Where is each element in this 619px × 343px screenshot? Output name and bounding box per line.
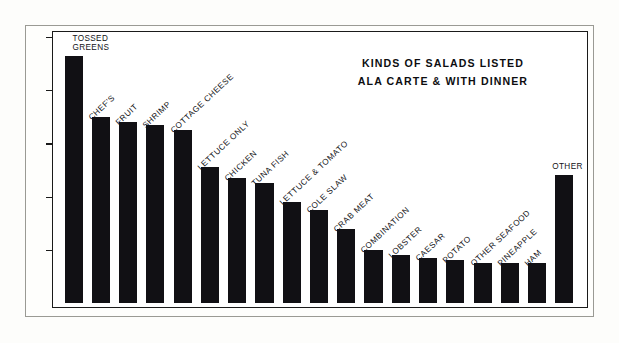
bar xyxy=(65,56,83,303)
bar xyxy=(201,167,219,303)
bar-category-label-line-2: GREENS xyxy=(73,43,110,52)
bar-category-label: LETTUCE & TOMATO xyxy=(278,139,350,207)
bar xyxy=(555,175,573,303)
bar xyxy=(119,122,137,303)
chart-title: KINDS OF SALADS LISTED ALA CARTE & WITH … xyxy=(318,54,568,90)
bar xyxy=(92,117,110,303)
bar xyxy=(419,258,437,303)
bar-category-label: CRAB MEAT xyxy=(332,191,376,233)
chart-title-line-2: ALA CARTE & WITH DINNER xyxy=(318,72,568,90)
bar-category-label-line-1: TOSSED xyxy=(73,34,110,43)
bar xyxy=(364,250,382,303)
bar xyxy=(446,260,464,303)
y-axis: 20406080100 xyxy=(0,0,52,343)
bar xyxy=(474,263,492,303)
bar xyxy=(337,229,355,303)
bar-category-label: TOSSEDGREENS xyxy=(73,34,110,53)
bar xyxy=(528,263,546,303)
figure-canvas: 20406080100 TOSSEDGREENSCHEF'SFRUITSHRIM… xyxy=(0,0,619,343)
bar xyxy=(146,125,164,303)
bar xyxy=(310,210,328,303)
bar xyxy=(501,263,519,303)
bar xyxy=(283,202,301,303)
bar-category-label: COTTAGE CHEESE xyxy=(168,72,235,135)
chart-title-line-1: KINDS OF SALADS LISTED xyxy=(318,54,568,72)
bar xyxy=(228,178,246,303)
bar-category-label: OTHER xyxy=(552,162,582,171)
bar xyxy=(255,183,273,303)
bar xyxy=(174,130,192,303)
bar xyxy=(392,255,410,303)
